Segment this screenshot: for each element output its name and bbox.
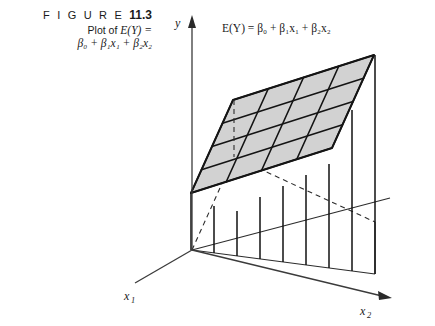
y-axis-arrowhead xyxy=(188,15,196,28)
x1-axis-line xyxy=(135,250,192,283)
response-plane xyxy=(191,55,374,193)
response-surface-plot: y x 1 x 2 xyxy=(0,0,435,326)
x1-axis-label: x xyxy=(123,289,130,303)
y-axis-label: y xyxy=(174,16,181,30)
x2-axis-line xyxy=(192,250,382,296)
x2-axis-label: x xyxy=(359,304,366,318)
x2-ground-ray xyxy=(192,198,390,250)
x2-axis-label-sub: 2 xyxy=(367,311,371,320)
x1-axis-label-sub: 1 xyxy=(131,296,135,305)
x2-axis-arrowhead xyxy=(378,291,392,300)
figure-root: F I G U R E 11.3 Plot of E(Y) = β₀ + β₁x… xyxy=(0,0,435,326)
reference-slant-line xyxy=(192,198,390,250)
